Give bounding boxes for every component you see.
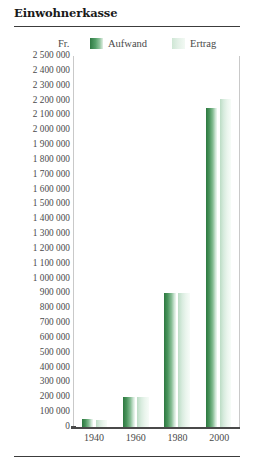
x-axis-labels: 1940196019802000 — [14, 432, 240, 448]
title-block: Einwohnerkasse — [14, 6, 240, 20]
bar-chart: 2 500 0002 400 0002 300 0002 200 0002 10… — [14, 56, 240, 452]
y-axis-tick-label: 2 500 000 — [33, 51, 70, 60]
x-axis-line — [71, 427, 240, 429]
chart-page: Einwohnerkasse Fr. Aufwand Ertrag 2 500 … — [0, 0, 254, 472]
y-axis-tick-label: 1 600 000 — [33, 185, 70, 194]
y-axis-tick-label: 0 — [65, 422, 70, 431]
y-axis-tick-label: 600 000 — [40, 333, 70, 342]
y-axis-labels: 2 500 0002 400 0002 300 0002 200 0002 10… — [14, 56, 70, 436]
legend-label-ertrag: Ertrag — [190, 38, 216, 49]
x-axis-tick-label: 1980 — [167, 432, 187, 443]
bar-ertrag-2000 — [220, 99, 232, 427]
bar-aufwand-1960 — [123, 397, 135, 427]
bar-ertrag-1940 — [96, 420, 108, 427]
bottom-divider — [14, 456, 240, 457]
bar-aufwand-2000 — [206, 108, 218, 427]
y-axis-tick-label: 700 000 — [40, 318, 70, 327]
bar-ertrag-1980 — [178, 293, 190, 427]
y-axis-tick-label: 900 000 — [40, 289, 70, 298]
y-axis-tick-label: 2 400 000 — [33, 66, 70, 75]
y-axis-tick-label: 1 200 000 — [33, 244, 70, 253]
legend-label-aufwand: Aufwand — [108, 38, 147, 49]
legend-item-ertrag: Ertrag — [172, 38, 216, 49]
page-title: Einwohnerkasse — [14, 6, 240, 20]
y-axis-tick-label: 100 000 — [40, 408, 70, 417]
y-axis-tick-label: 300 000 — [40, 378, 70, 387]
plot-area — [73, 56, 240, 427]
y-axis-tick-label: 1 000 000 — [33, 274, 70, 283]
y-axis-tick-label: 1 100 000 — [33, 259, 70, 268]
y-axis-tick-label: 1 400 000 — [33, 215, 70, 224]
y-axis-tick-label: 1 500 000 — [33, 200, 70, 209]
aufwand-swatch-icon — [90, 38, 103, 49]
legend-unit-label: Fr. — [58, 38, 69, 49]
y-axis-tick-label: 2 100 000 — [33, 111, 70, 120]
bar-ertrag-1960 — [137, 397, 149, 427]
y-axis-tick-label: 2 200 000 — [33, 96, 70, 105]
bar-aufwand-1980 — [164, 293, 176, 427]
y-axis-tick-label: 500 000 — [40, 348, 70, 357]
legend-item-aufwand: Aufwand — [90, 38, 147, 49]
y-axis-tick-label: 200 000 — [40, 393, 70, 402]
top-divider — [14, 26, 240, 27]
y-axis-tick-label: 800 000 — [40, 304, 70, 313]
y-axis-tick-label: 400 000 — [40, 363, 70, 372]
bar-series-container — [74, 56, 239, 427]
y-axis-tick-label: 1 900 000 — [33, 140, 70, 149]
ertrag-swatch-icon — [172, 38, 185, 49]
y-axis-tick-label: 2 000 000 — [33, 126, 70, 135]
x-axis-tick-label: 2000 — [209, 432, 229, 443]
y-axis-tick-label: 2 300 000 — [33, 81, 70, 90]
y-axis-tick-label: 1 300 000 — [33, 229, 70, 238]
x-axis-tick-label: 1940 — [84, 432, 104, 443]
y-axis-tick-label: 1 700 000 — [33, 170, 70, 179]
bar-aufwand-1940 — [82, 419, 94, 427]
y-axis-tick-label: 1 800 000 — [33, 155, 70, 164]
x-axis-tick-label: 1960 — [126, 432, 146, 443]
